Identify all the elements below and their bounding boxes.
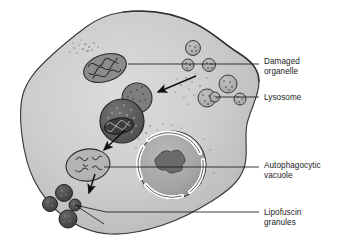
label-damaged-organelle: Damaged organelle (264, 57, 300, 76)
label-lysosome: Lysosome (264, 93, 302, 102)
label-lysosome-line1: Lysosome (264, 93, 302, 102)
label-autophagocytic-vacuole: Autophagocytic vacuole (264, 161, 321, 180)
label-damaged-organelle-line2: organelle (264, 67, 299, 76)
lysosome (219, 75, 237, 93)
lysosome (234, 93, 246, 105)
autophagy-diagram: Damaged organelle Lysosome Autophagocyti… (0, 0, 345, 250)
lysosome (203, 59, 216, 72)
label-autophagocytic-vacuole-line2: vacuole (264, 171, 293, 180)
lysosome (182, 59, 194, 71)
label-autophagocytic-vacuole-line1: Autophagocytic (264, 161, 321, 170)
label-damaged-organelle-line1: Damaged (264, 57, 300, 66)
lysosome (186, 41, 201, 56)
label-lipofuscin-granules: Lipofuscin granules (264, 208, 302, 227)
label-lipofuscin-granules-line1: Lipofuscin (264, 208, 302, 217)
nucleus (138, 131, 206, 199)
label-lipofuscin-granules-line2: granules (264, 218, 296, 227)
